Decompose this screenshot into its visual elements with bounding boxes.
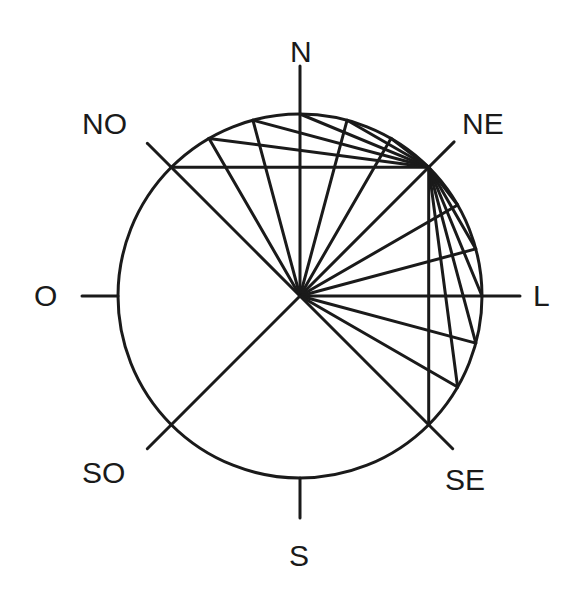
- label-northeast: NE: [462, 107, 504, 140]
- label-east: L: [533, 279, 550, 312]
- spoke: [300, 249, 476, 296]
- spoke: [300, 120, 347, 296]
- label-southeast: SE: [445, 463, 485, 496]
- construction-lines: [82, 66, 520, 518]
- chord-from-northeast: [347, 120, 429, 167]
- label-north: N: [290, 35, 312, 68]
- label-northwest: NO: [82, 107, 127, 140]
- tick-northwest: [147, 143, 171, 167]
- chord-from-northeast: [429, 167, 476, 249]
- label-west: O: [34, 279, 57, 312]
- label-southwest: SO: [82, 456, 125, 489]
- compass-diagram: N NE L SE S SO O NO: [0, 0, 572, 599]
- spoke-southwest: [171, 296, 300, 425]
- label-south: S: [289, 539, 309, 572]
- tick-southeast: [429, 425, 453, 449]
- tick-southwest: [147, 425, 171, 449]
- tick-northeast: [429, 142, 454, 167]
